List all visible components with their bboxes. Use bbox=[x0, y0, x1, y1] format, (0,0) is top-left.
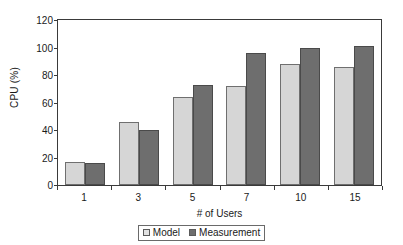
x-tick-label: 3 bbox=[111, 192, 165, 203]
legend-swatch-icon bbox=[143, 229, 150, 236]
bar-model-5 bbox=[173, 97, 193, 185]
x-axis-title: # of Users bbox=[57, 208, 382, 219]
bar-measurement-10 bbox=[300, 48, 320, 186]
bar-measurement-3 bbox=[139, 130, 159, 185]
y-tick-label: 20 bbox=[19, 152, 53, 163]
bar-group bbox=[112, 20, 166, 185]
y-tick-label: 120 bbox=[19, 15, 53, 26]
y-tick-label: 0 bbox=[19, 180, 53, 191]
bar-measurement-7 bbox=[246, 53, 266, 185]
bar-measurement-1 bbox=[85, 163, 105, 185]
legend-label: Measurement bbox=[199, 227, 260, 238]
bar-model-3 bbox=[119, 122, 139, 185]
x-axis-tick-labels: 13571015 bbox=[57, 192, 382, 203]
x-tick-label: 15 bbox=[328, 192, 382, 203]
legend-label: Model bbox=[153, 227, 180, 238]
bar-group bbox=[166, 20, 220, 185]
bar-group bbox=[219, 20, 273, 185]
bars-layer bbox=[58, 20, 381, 185]
bar-model-10 bbox=[280, 64, 300, 185]
x-tickmark bbox=[328, 186, 329, 190]
x-tick-label: 10 bbox=[274, 192, 328, 203]
x-tickmark bbox=[274, 186, 275, 190]
legend-item-model[interactable]: Model bbox=[143, 227, 180, 238]
x-axis-tickmarks bbox=[57, 186, 382, 191]
x-tick-label: 1 bbox=[57, 192, 111, 203]
y-tick-label: 100 bbox=[19, 42, 53, 53]
x-tickmark bbox=[165, 186, 166, 190]
bar-model-7 bbox=[226, 86, 246, 185]
legend-item-measurement[interactable]: Measurement bbox=[189, 227, 260, 238]
x-tickmark bbox=[382, 186, 383, 190]
x-tick-label: 7 bbox=[220, 192, 274, 203]
bar-model-1 bbox=[65, 162, 85, 185]
cpu-utilization-bar-chart: CPU (%) 020406080100120 13571015 # of Us… bbox=[0, 0, 403, 245]
bar-group bbox=[327, 20, 381, 185]
legend: ModelMeasurement bbox=[0, 225, 403, 241]
bar-group bbox=[273, 20, 327, 185]
bar-measurement-15 bbox=[354, 46, 374, 185]
y-tick-label: 40 bbox=[19, 125, 53, 136]
y-axis-title: CPU (%) bbox=[9, 48, 20, 128]
plot-area: 020406080100120 bbox=[57, 19, 382, 186]
legend-swatch-icon bbox=[189, 229, 196, 236]
x-tickmark bbox=[220, 186, 221, 190]
y-tick-label: 80 bbox=[19, 70, 53, 81]
x-tickmark bbox=[111, 186, 112, 190]
x-tickmark bbox=[57, 186, 58, 190]
legend-box: ModelMeasurement bbox=[138, 225, 265, 241]
y-tick-label: 60 bbox=[19, 97, 53, 108]
bar-group bbox=[58, 20, 112, 185]
bar-measurement-5 bbox=[193, 85, 213, 185]
x-tick-label: 5 bbox=[165, 192, 219, 203]
bar-model-15 bbox=[334, 67, 354, 185]
